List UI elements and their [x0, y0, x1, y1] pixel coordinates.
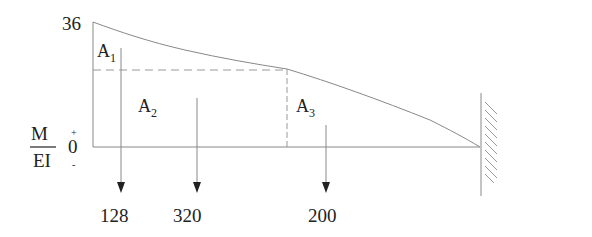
area-a2-label: A2	[138, 96, 157, 120]
axis-label-numerator: M	[31, 123, 48, 144]
axis-label-denominator: EI	[33, 150, 51, 171]
resultant-128-label: 128	[100, 205, 129, 226]
arrow-200-head	[322, 182, 330, 193]
axis-minus-sign: -	[72, 159, 75, 170]
area-a3-label: A3	[296, 96, 315, 120]
arrow-128-head	[117, 182, 125, 193]
resultant-200-label: 200	[308, 205, 337, 226]
wall-hatch-icon	[485, 102, 497, 183]
resultant-320-label: 320	[173, 205, 202, 226]
axis-zero-label: 0	[68, 136, 78, 157]
max-value-label: 36	[62, 13, 81, 34]
arrow-320-head	[193, 182, 201, 193]
area-a1-label: A1	[97, 41, 116, 65]
